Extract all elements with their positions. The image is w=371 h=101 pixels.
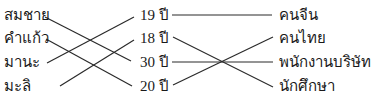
left-item-somchai: สมชาย (4, 6, 50, 24)
left-item-mana: มานะ (4, 53, 40, 71)
age-item-19: 19 ปี (140, 6, 169, 24)
age-item-30: 30 ปี (140, 53, 169, 71)
right-item-employee: พนักงานบริษัท (279, 53, 371, 71)
connector-somchai-30 (45, 17, 131, 61)
connector-khamkaeo-20 (46, 39, 132, 86)
age-item-18: 18 ปี (140, 29, 169, 47)
left-item-mali: มะลิ (4, 77, 31, 95)
right-item-student: นักศึกษา (279, 77, 335, 95)
age-item-20: 20 ปี (140, 77, 169, 95)
left-item-khamkaeo: คำแก้ว (4, 29, 49, 47)
right-item-thai: คนไทย (279, 29, 326, 47)
connector-mali-18 (60, 40, 134, 86)
right-item-chinese: คนจีน (279, 6, 318, 24)
